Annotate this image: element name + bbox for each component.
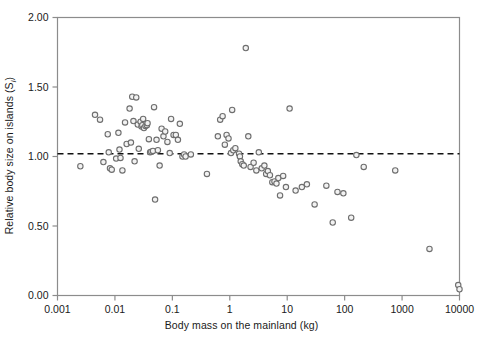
y-axis-tick-label: 0.00 [28, 289, 49, 301]
data-point [152, 197, 157, 202]
data-point [393, 168, 398, 173]
data-point [348, 215, 353, 220]
data-point [312, 202, 317, 207]
data-point [274, 181, 279, 186]
data-point [267, 173, 272, 178]
data-point [151, 104, 156, 109]
data-point [287, 106, 292, 111]
data-point [254, 168, 259, 173]
data-point [92, 112, 97, 117]
data-point [241, 163, 246, 168]
data-point [105, 132, 110, 137]
data-point [251, 160, 256, 165]
data-point [162, 129, 167, 134]
data-point [167, 150, 172, 155]
data-point [165, 139, 170, 144]
y-axis-tick-label: 0.50 [28, 220, 49, 232]
data-point [354, 152, 359, 157]
data-point [120, 168, 125, 173]
data-point [117, 147, 122, 152]
data-point [324, 183, 329, 188]
data-point [280, 173, 285, 178]
data-point [204, 171, 209, 176]
data-point [220, 113, 225, 118]
data-point [256, 150, 261, 155]
data-point [243, 45, 248, 50]
x-axis-tick-label: 10 [281, 303, 293, 315]
data-point [101, 159, 106, 164]
data-point [78, 164, 83, 169]
x-axis-tick-label: 0.01 [105, 303, 126, 315]
data-point [145, 120, 150, 125]
data-point [277, 193, 282, 198]
data-point [304, 182, 309, 187]
data-point [457, 287, 462, 292]
scatter-chart-figure: 0.0010.010.11101001000100000.000.501.001… [0, 0, 483, 338]
data-point [361, 164, 366, 169]
x-axis-tick-label: 0.1 [165, 303, 180, 315]
data-point [293, 188, 298, 193]
data-point [229, 107, 234, 112]
data-point [341, 191, 346, 196]
y-axis-title-container: Relative body size on islands (Si) [0, 0, 22, 312]
y-axis-tick-label: 1.50 [28, 81, 49, 93]
y-axis-tick-label: 1.00 [28, 150, 49, 162]
data-point [177, 121, 182, 126]
data-point [168, 116, 173, 121]
data-point [183, 154, 188, 159]
data-point [146, 136, 151, 141]
data-point [127, 106, 132, 111]
data-point [330, 220, 335, 225]
plot-canvas: 0.0010.010.11101001000100000.000.501.001… [0, 0, 483, 338]
data-point [157, 163, 162, 168]
y-axis-title: Relative body size on islands (Si) [3, 77, 18, 235]
data-point [136, 146, 141, 151]
data-point [188, 152, 193, 157]
data-point [122, 120, 127, 125]
x-axis-tick-label: 100 [336, 303, 354, 315]
x-axis-tick-label: 10000 [445, 303, 474, 315]
data-point [283, 184, 288, 189]
data-point [155, 148, 160, 153]
data-point [109, 167, 114, 172]
x-axis-tick-label: 1 [227, 303, 233, 315]
y-axis-tick-label: 2.00 [28, 11, 49, 23]
data-point-group [78, 45, 463, 292]
data-point [233, 145, 238, 150]
data-point [262, 163, 267, 168]
data-point [215, 134, 220, 139]
data-point [140, 116, 145, 121]
data-point [222, 142, 227, 147]
data-point [226, 136, 231, 141]
data-point [106, 150, 111, 155]
data-point [116, 130, 121, 135]
data-point [246, 134, 251, 139]
data-point [335, 189, 340, 194]
data-point [128, 140, 133, 145]
data-point [97, 117, 102, 122]
x-axis-title: Body mass on the mainland (kg) [0, 319, 483, 331]
data-point [175, 137, 180, 142]
x-axis-tick-label: 0.001 [44, 303, 70, 315]
data-point [132, 159, 137, 164]
data-point [118, 155, 123, 160]
data-point [427, 246, 432, 251]
x-axis-tick-label: 1000 [390, 303, 414, 315]
data-point [134, 95, 139, 100]
data-point [154, 137, 159, 142]
